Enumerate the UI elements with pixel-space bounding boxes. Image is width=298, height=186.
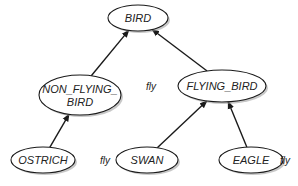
node-label: EAGLE xyxy=(233,154,270,166)
feature-annotation-eagle: fly xyxy=(280,155,291,166)
node-label: FLYING_BIRD xyxy=(186,80,257,92)
class-node-bird: BIRD xyxy=(108,5,170,33)
inheritance-arrow-eagle-to-flying_bird xyxy=(228,102,247,147)
inheritance-diagram: BIRDNON_FLYING_BIRDFLYING_BIRDOSTRICHSWA… xyxy=(0,0,298,186)
node-label: BIRD xyxy=(67,96,93,108)
inheritance-arrow-ostrich-to-non_flying_bird xyxy=(50,114,69,147)
node-label: NON_FLYING_ xyxy=(42,83,117,95)
node-label: SWAN xyxy=(131,154,164,166)
node-label: OSTRICH xyxy=(18,154,68,166)
class-node-flying-bird: FLYING_BIRD xyxy=(178,70,268,104)
class-node-ostrich: OSTRICH xyxy=(11,147,77,175)
class-node-non-flying-bird: NON_FLYING_BIRD xyxy=(39,75,123,117)
feature-annotation-flying-bird: fly xyxy=(146,81,157,92)
inheritance-arrow-non_flying_bird-to-bird xyxy=(91,30,128,75)
class-node-swan: SWAN xyxy=(116,147,180,175)
inheritance-arrow-flying_bird-to-bird xyxy=(152,30,207,72)
node-label: BIRD xyxy=(125,12,151,24)
class-node-eagle: EAGLE xyxy=(219,147,285,175)
feature-annotation-swan: fly xyxy=(100,155,111,166)
inheritance-arrow-swan-to-flying_bird xyxy=(157,101,207,148)
